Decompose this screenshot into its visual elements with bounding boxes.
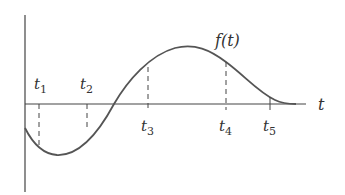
function-diagram: f(t) t t1 t2 t3 t4 t5 — [0, 0, 345, 195]
function-label: f(t) — [214, 31, 240, 50]
marker-label-t3: t3 — [141, 117, 154, 138]
marker-label-t2: t2 — [80, 75, 93, 96]
marker-label-t1: t1 — [34, 75, 47, 96]
t-axis-label: t — [318, 95, 325, 114]
marker-label-t5: t5 — [263, 117, 276, 138]
function-curve — [25, 46, 296, 155]
marker-label-t4: t4 — [219, 117, 232, 138]
